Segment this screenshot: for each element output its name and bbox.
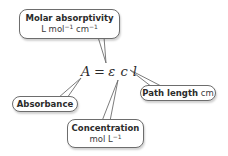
beer-lambert-equation: A=ε c l [81, 64, 138, 79]
concentration-symbol: c [120, 64, 128, 79]
unit-exponent: −1 [64, 23, 73, 30]
epsilon-symbol: ε [108, 64, 115, 79]
absorbance-label: Absorbance [17, 99, 73, 109]
concentration-pointer [102, 80, 118, 121]
equals-sign: = [94, 64, 105, 79]
concentration-callout: Concentration mol L−1 [67, 119, 144, 148]
unit-exponent: −1 [113, 133, 122, 140]
unit-part: cm [73, 24, 89, 34]
absorbance-callout: Absorbance [12, 96, 78, 112]
unit-part: mol L [89, 134, 112, 144]
unit-exponent: −1 [89, 23, 98, 30]
absorbance-pointer [58, 78, 81, 98]
molar-absorptivity-pointer [98, 37, 106, 63]
unit-part: L mol [41, 24, 64, 34]
path-length-unit: cm [198, 88, 214, 98]
path-length-label: Path length [142, 88, 198, 98]
concentration-unit: mol L−1 [68, 134, 143, 145]
absorbance-symbol: A [81, 64, 91, 79]
molar-absorptivity-callout: Molar absorptivity L mol−1 cm−1 [19, 9, 120, 39]
path-length-callout: Path length cm [140, 85, 216, 101]
molar-absorptivity-unit: L mol−1 cm−1 [20, 24, 119, 35]
concentration-label: Concentration [68, 123, 143, 134]
path-length-symbol: l [133, 64, 138, 79]
